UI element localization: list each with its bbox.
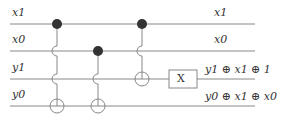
wire-label-in: x0 — [12, 33, 25, 46]
circuit-graphics — [0, 0, 284, 122]
quantum-circuit: x1 x0 y1 y0 x1 x0 y1 ⊕ x1 ⊕ 1 y0 ⊕ x1 ⊕ … — [0, 0, 284, 122]
wire-label-out: x0 — [214, 33, 227, 46]
wire-label-out: y1 ⊕ x1 ⊕ 1 — [205, 63, 271, 76]
wire-label-in: y1 — [12, 61, 25, 74]
wire-label-out: y0 ⊕ x1 ⊕ x0 — [205, 90, 277, 103]
wire-label-in: x1 — [12, 6, 25, 19]
x-gate-label: X — [177, 72, 185, 85]
wire-label-out: x1 — [214, 6, 227, 19]
wire-label-in: y0 — [12, 88, 25, 101]
